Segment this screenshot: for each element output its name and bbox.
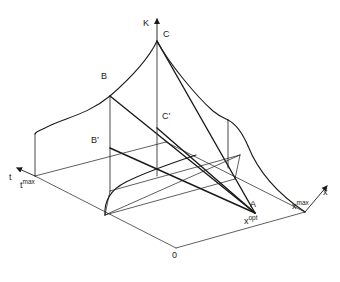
x-opt-tick-label: xopt bbox=[244, 217, 258, 226]
x-max-sup: max bbox=[297, 199, 309, 206]
point-b-prime-label: B’ bbox=[91, 136, 99, 145]
x-max-tick-label: xmax bbox=[292, 202, 309, 211]
t-max-tick-label: tmax bbox=[20, 181, 35, 190]
surface-diagram-figure: K x t C B C’ B’ A 0 tmax xopt xmax bbox=[0, 0, 340, 282]
point-c-label: C bbox=[163, 30, 170, 39]
point-b-label: B bbox=[101, 72, 107, 81]
k-axis-label: K bbox=[143, 19, 149, 28]
t-axis-label: t bbox=[9, 173, 12, 182]
diagram-canvas bbox=[0, 0, 340, 282]
point-a-label: A bbox=[250, 200, 256, 209]
base-front-right-segment bbox=[255, 212, 305, 213]
base-projected-curve bbox=[105, 152, 255, 215]
axis-lines bbox=[17, 19, 327, 212]
t-max-sup: max bbox=[23, 178, 35, 185]
vertical-projection-lines bbox=[35, 44, 228, 191]
point-c-prime-label: C’ bbox=[162, 112, 171, 121]
x-axis-label: x bbox=[323, 188, 328, 197]
x-opt-sup: opt bbox=[249, 214, 258, 221]
surface-straight-edges bbox=[110, 41, 255, 213]
base-plane-outline bbox=[35, 142, 305, 248]
origin-label: 0 bbox=[172, 251, 177, 260]
